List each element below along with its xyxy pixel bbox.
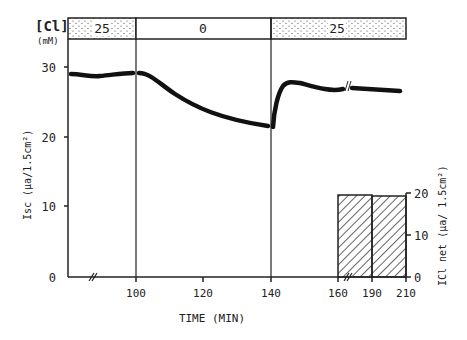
- segment-label: 25: [94, 21, 110, 36]
- svg-text:10: 10: [414, 229, 428, 243]
- cl-label: [Cl]: [35, 18, 69, 34]
- svg-text:140: 140: [261, 287, 281, 300]
- svg-text:100: 100: [126, 287, 146, 300]
- bar-190-210: [372, 196, 406, 277]
- bar-160-190: [338, 195, 372, 277]
- svg-text:160: 160: [328, 287, 348, 300]
- svg-text:190: 190: [362, 287, 382, 300]
- segment-label: 0: [199, 21, 207, 36]
- chloride-concentration-bar: 25 0 25 [Cl] (mM): [35, 18, 406, 46]
- svg-text:20: 20: [42, 131, 56, 145]
- mm-unit-label: (mM): [37, 36, 59, 46]
- svg-text:0: 0: [49, 271, 56, 285]
- right-y-tick-labels: 20 10 0: [414, 187, 428, 285]
- svg-text:10: 10: [42, 200, 56, 214]
- axis-break-marks: [89, 81, 352, 281]
- svg-text:210: 210: [396, 287, 416, 300]
- icl-net-bars: [338, 195, 406, 277]
- chart-figure: 25 0 25 [Cl] (mM): [0, 0, 467, 340]
- right-y-axis-label: ICl net (µa/ 1.5cm²): [437, 166, 448, 286]
- y-axis-label: Isc (µa/1.5cm²): [22, 130, 33, 220]
- x-axis-label: TIME (MIN): [179, 312, 245, 325]
- segment-label: 25: [329, 21, 345, 36]
- svg-text:120: 120: [193, 287, 213, 300]
- x-tick-labels: 100 120 140 160 190 210: [126, 287, 416, 300]
- svg-text:20: 20: [414, 187, 428, 201]
- y-tick-labels: 30 20 10 0: [42, 61, 56, 285]
- svg-text:0: 0: [414, 271, 421, 285]
- svg-text:30: 30: [42, 61, 56, 75]
